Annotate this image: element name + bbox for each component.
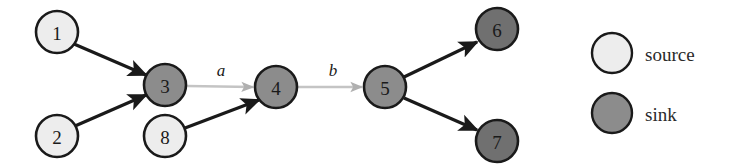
figure-canvas: a b 1 2 8 3 4: [0, 0, 743, 168]
edge-2-to-3: [75, 95, 146, 126]
edge-label-a: a: [217, 61, 226, 80]
edge-3-to-4: [187, 86, 253, 87]
legend-source-label: source: [645, 44, 695, 65]
legend-sink-label: sink: [645, 104, 677, 125]
node-5-circle[interactable]: [364, 66, 406, 108]
node-7[interactable]: 7: [476, 120, 518, 162]
node-2[interactable]: 2: [36, 115, 78, 157]
node-4[interactable]: 4: [255, 66, 297, 108]
legend: source sink: [592, 33, 695, 133]
node-2-circle[interactable]: [36, 115, 78, 157]
node-1-circle[interactable]: [36, 11, 78, 53]
legend-source-swatch: [592, 33, 632, 73]
node-3-circle[interactable]: [144, 64, 186, 106]
edge-5-to-7: [404, 98, 477, 130]
edge-1-to-3: [74, 44, 146, 75]
node-6[interactable]: 6: [476, 8, 518, 50]
node-3[interactable]: 3: [144, 64, 186, 106]
graph-diagram: a b 1 2 8 3 4: [0, 0, 743, 168]
legend-item-source: source: [592, 33, 695, 73]
edge-label-b: b: [329, 61, 338, 80]
node-5[interactable]: 5: [364, 66, 406, 108]
node-4-circle[interactable]: [255, 66, 297, 108]
edge-5-to-6: [404, 42, 477, 77]
edge-8-to-4: [185, 100, 259, 128]
node-8[interactable]: 8: [144, 115, 186, 157]
node-8-circle[interactable]: [144, 115, 186, 157]
node-layer: 1 2 8 3 4 5: [36, 8, 518, 162]
node-7-circle[interactable]: [476, 120, 518, 162]
node-1[interactable]: 1: [36, 11, 78, 53]
node-6-circle[interactable]: [476, 8, 518, 50]
legend-sink-swatch: [592, 93, 632, 133]
legend-item-sink: sink: [592, 93, 677, 133]
